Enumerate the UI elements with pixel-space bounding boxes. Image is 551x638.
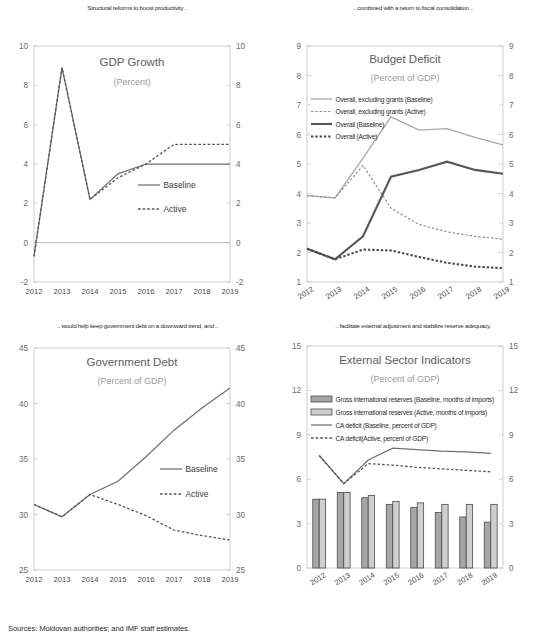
series-line <box>34 68 230 257</box>
legend-label: Active <box>186 489 209 499</box>
y-axis-tick-label-right: 5 <box>509 160 514 169</box>
y-axis-tick-label-left: 2 <box>296 249 301 258</box>
y-axis-tick-label-right: 25 <box>236 566 246 575</box>
series-line <box>307 162 503 260</box>
y-axis-tick-label-right: 6 <box>509 475 514 484</box>
series-line <box>319 456 491 484</box>
x-axis-tick-label: 2017 <box>436 285 455 302</box>
legend-label: Baseline <box>164 180 196 190</box>
x-axis-tick-label: 2019 <box>492 285 511 302</box>
chart-subtitle: (Percent of GDP) <box>370 73 439 83</box>
chart-title: GDP Growth <box>100 56 165 68</box>
series-line <box>307 249 503 268</box>
bar-active <box>368 495 374 568</box>
x-axis-tick-label: 2019 <box>222 575 239 584</box>
y-axis-tick-label-left: 30 <box>19 511 29 520</box>
bar-active <box>442 504 448 568</box>
bar-active <box>393 501 399 568</box>
bar-active <box>344 493 350 568</box>
chart-subtitle: (Percent of GDP) <box>370 374 439 384</box>
x-axis-tick-label: 2015 <box>382 571 401 588</box>
bar-active <box>319 499 325 568</box>
x-axis-tick-label: 2014 <box>82 287 99 296</box>
x-axis-tick-label: 2017 <box>166 575 183 584</box>
chart-title: Budget Deficit <box>369 53 441 65</box>
legend-label: Active <box>164 204 187 214</box>
y-axis-tick-label-left: 4 <box>296 190 301 199</box>
panel-budget-deficit: .. combined with a return to fiscal cons… <box>275 0 551 318</box>
y-axis-tick-label-left: 7 <box>296 101 301 110</box>
y-axis-tick-label-right: 12 <box>509 386 519 395</box>
y-axis-tick-label-left: 6 <box>296 131 301 140</box>
y-axis-tick-label-right: 7 <box>509 101 514 110</box>
x-axis-tick-label: 2013 <box>54 287 71 296</box>
bar-active <box>466 504 472 568</box>
bar-baseline <box>362 498 368 568</box>
y-axis-tick-label-right: 35 <box>236 455 246 464</box>
y-axis-tick-label-right: 9 <box>509 431 514 440</box>
panel-debt-plot: 2525303035354040454520122013201420152016… <box>0 318 275 616</box>
y-axis-tick-label-left: 10 <box>19 42 29 51</box>
series-line <box>307 165 503 239</box>
x-axis-tick-label: 2019 <box>480 571 499 588</box>
x-axis-tick-label: 2015 <box>380 285 399 302</box>
panel-external-plot: 0033669912121515201220132014201520162017… <box>275 318 551 616</box>
bar-baseline <box>411 507 417 568</box>
legend-label: Overall, excluding grants (Active) <box>336 108 426 116</box>
x-axis-tick-label: 2014 <box>357 571 376 588</box>
legend-label: CA deficit(Active, percent of GDP) <box>336 435 429 443</box>
figure-panel-grid: Structural reforms to boost productivity… <box>0 0 551 616</box>
legend-label: Overall (Active) <box>336 133 378 141</box>
x-axis-tick-label: 2016 <box>408 285 427 302</box>
y-axis-tick-label-right: 2 <box>509 249 514 258</box>
x-axis-tick-label: 2018 <box>194 287 211 296</box>
y-axis-tick-label-right: -2 <box>236 278 244 287</box>
legend-swatch-baseline-bar <box>311 396 332 402</box>
x-axis-tick-label: 2013 <box>333 571 352 588</box>
x-axis-tick-label: 2012 <box>26 575 43 584</box>
y-axis-tick-label-left: 0 <box>23 239 28 248</box>
bar-active <box>491 504 497 568</box>
legend-label: Overall (Baseline) <box>336 121 385 129</box>
chart-title: External Sector Indicators <box>339 354 471 366</box>
y-axis-tick-label-left: 8 <box>23 81 28 90</box>
y-axis-tick-label-left: 9 <box>296 42 301 51</box>
y-axis-tick-label-right: 40 <box>236 400 246 409</box>
y-axis-tick-label-left: 6 <box>23 121 28 130</box>
x-axis-tick-label: 2016 <box>138 287 155 296</box>
y-axis-tick-label-right: 6 <box>236 121 241 130</box>
series-line <box>34 495 230 541</box>
y-axis-tick-label-right: 8 <box>509 72 514 81</box>
bar-baseline <box>460 517 466 568</box>
y-axis-tick-label-left: 6 <box>296 475 301 484</box>
y-axis-tick-label-right: 1 <box>509 278 514 287</box>
panel-gdp-plot: -2-2002244668810102012201320142015201620… <box>0 0 275 318</box>
legend-swatch-active-bar <box>311 409 332 415</box>
chart-subtitle: (Percent) <box>113 77 150 87</box>
x-axis-tick-label: 2018 <box>464 285 483 302</box>
bar-baseline <box>484 522 490 568</box>
series-line <box>319 448 491 484</box>
bar-baseline <box>313 499 319 568</box>
y-axis-tick-label-right: 0 <box>509 564 514 573</box>
series-line <box>34 68 230 257</box>
y-axis-tick-label-right: 10 <box>236 42 246 51</box>
y-axis-tick-label-right: 8 <box>236 81 241 90</box>
legend-label: Baseline <box>186 464 218 474</box>
x-axis-tick-label: 2014 <box>352 285 371 302</box>
x-axis-tick-label: 2013 <box>324 285 343 302</box>
x-axis-tick-label: 2015 <box>110 575 127 584</box>
y-axis-tick-label-left: 15 <box>292 342 302 351</box>
x-axis-tick-label: 2018 <box>194 575 211 584</box>
y-axis-tick-label-right: 3 <box>509 520 514 529</box>
x-axis-tick-label: 2016 <box>406 571 425 588</box>
y-axis-tick-label-left: 2 <box>23 199 28 208</box>
bar-baseline <box>435 513 441 569</box>
y-axis-tick-label-right: 9 <box>509 42 514 51</box>
y-axis-tick-label-left: 5 <box>296 160 301 169</box>
x-axis-tick-label: 2017 <box>166 287 183 296</box>
x-axis-tick-label: 2014 <box>82 575 99 584</box>
panel-government-debt: .. would help keep government debt on a … <box>0 318 275 616</box>
x-axis-tick-label: 2012 <box>308 571 327 588</box>
panel-deficit-plot: 1122334455667788992012201320142015201620… <box>275 0 551 318</box>
